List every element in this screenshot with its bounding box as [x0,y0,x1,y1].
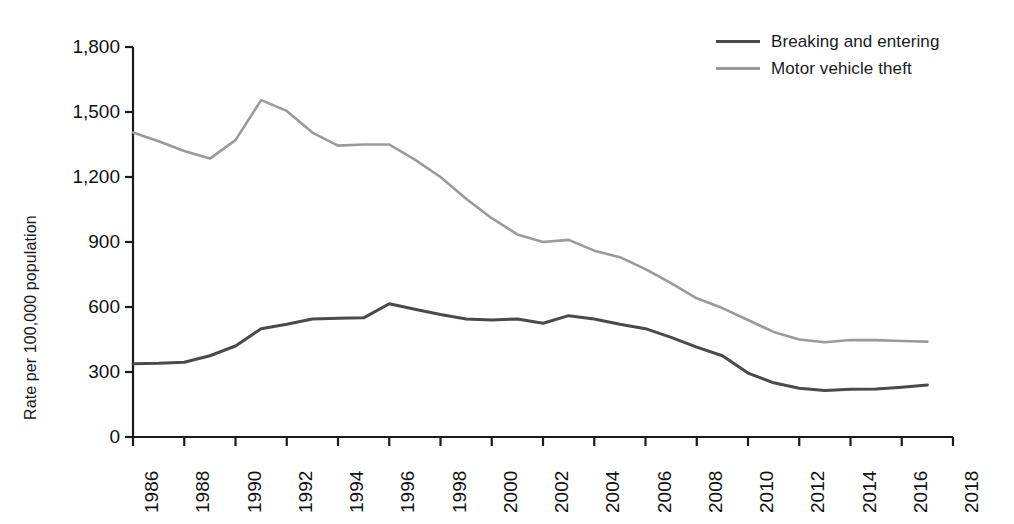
x-tick-label: 1988 [192,471,214,513]
x-tick-label: 2006 [654,471,676,513]
chart-container: Rate per 100,000 population 03006009001,… [0,0,1014,524]
legend: Breaking and entering Motor vehicle thef… [716,28,939,82]
x-tick-label: 2000 [500,471,522,513]
data-line-motor-vehicle-theft [133,100,927,342]
y-tick-label: 0 [46,426,120,448]
legend-label-breaking-and-entering: Breaking and entering [771,32,939,52]
x-tick-label: 2004 [602,471,624,513]
x-tick-label: 2010 [756,471,778,513]
y-axis-title: Rate per 100,000 population [22,0,52,420]
legend-label-motor-vehicle-theft: Motor vehicle theft [771,59,912,79]
y-tick-label: 1,500 [46,101,120,123]
x-tick-label: 1996 [397,471,419,513]
x-tick-label: 2008 [705,471,727,513]
axes [125,47,953,446]
y-tick-label: 1,200 [46,166,120,188]
legend-item-breaking-and-entering: Breaking and entering [716,28,939,55]
x-tick-label: 2016 [910,471,932,513]
x-tick-label: 1994 [346,471,368,513]
x-tick-label: 2002 [551,471,573,513]
y-tick-label: 900 [46,231,120,253]
x-tick-label: 2018 [961,471,983,513]
legend-swatch-breaking-and-entering [716,40,760,43]
y-tick-label: 600 [46,296,120,318]
x-tick-label: 1990 [244,471,266,513]
x-tick-label: 1998 [449,471,471,513]
legend-item-motor-vehicle-theft: Motor vehicle theft [716,55,939,82]
x-tick-label: 1992 [295,471,317,513]
y-tick-label: 300 [46,361,120,383]
x-tick-label: 2012 [807,471,829,513]
y-tick-label: 1,800 [46,36,120,58]
x-tick-label: 1986 [141,471,163,513]
data-line-breaking-and-entering [133,304,927,391]
legend-swatch-motor-vehicle-theft [716,67,760,70]
data-lines [133,100,927,390]
x-tick-label: 2014 [859,471,881,513]
